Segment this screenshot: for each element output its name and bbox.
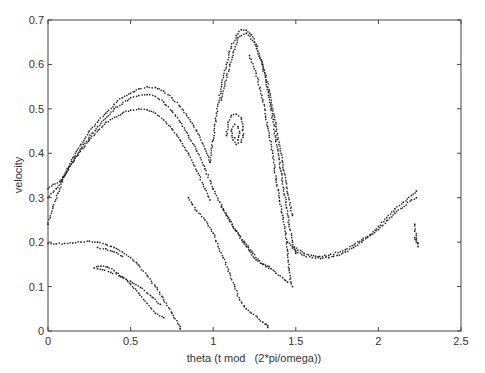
data-point <box>201 216 202 217</box>
data-point <box>182 143 183 144</box>
data-point <box>229 66 230 67</box>
data-point <box>78 241 79 242</box>
data-point <box>112 118 113 119</box>
data-point <box>107 245 108 246</box>
data-point <box>258 79 259 80</box>
data-point <box>286 246 287 247</box>
data-point <box>111 246 112 247</box>
data-point <box>132 91 133 92</box>
data-point <box>212 188 214 190</box>
data-point <box>264 108 265 109</box>
data-point <box>206 153 207 154</box>
data-point <box>273 162 274 163</box>
data-point <box>385 223 386 224</box>
data-point <box>232 55 233 56</box>
y-tick-label: 0.6 <box>29 58 44 70</box>
data-point <box>276 178 277 179</box>
data-point <box>128 256 129 257</box>
data-point <box>357 244 358 245</box>
data-point <box>392 214 393 215</box>
data-point <box>267 265 268 266</box>
data-point <box>411 199 413 201</box>
data-point <box>237 33 238 34</box>
data-point <box>278 153 279 154</box>
data-point <box>286 243 287 244</box>
data-point <box>236 144 238 146</box>
data-point <box>290 210 291 211</box>
data-point <box>313 255 314 256</box>
data-point <box>138 108 140 110</box>
data-point <box>68 168 69 169</box>
data-point <box>384 219 385 220</box>
data-point <box>79 145 80 146</box>
data-point <box>226 64 228 66</box>
data-point <box>98 129 99 130</box>
data-point <box>53 190 54 191</box>
data-point <box>260 320 261 321</box>
data-point <box>159 99 160 100</box>
data-point <box>181 123 182 124</box>
data-point <box>250 38 251 39</box>
data-point <box>159 294 160 295</box>
data-point <box>361 239 363 241</box>
data-point <box>416 197 418 199</box>
y-tick-label: 0.2 <box>29 236 44 248</box>
data-point <box>188 135 190 137</box>
data-point <box>113 247 115 249</box>
data-point <box>133 96 134 97</box>
data-point <box>84 138 85 139</box>
data-point <box>372 231 373 232</box>
data-point <box>190 121 191 122</box>
data-point <box>119 105 120 106</box>
data-point <box>270 97 271 98</box>
data-point <box>107 266 109 268</box>
data-point <box>169 95 170 96</box>
data-point <box>271 146 272 147</box>
data-point <box>258 84 259 85</box>
data-point <box>224 85 225 86</box>
data-point <box>207 155 208 156</box>
data-point <box>200 139 201 140</box>
data-point <box>187 132 188 133</box>
data-point <box>219 97 220 98</box>
data-point <box>172 129 173 130</box>
data-point <box>287 261 288 262</box>
data-point <box>284 174 285 175</box>
data-point <box>196 210 198 212</box>
data-point <box>71 161 72 162</box>
data-point <box>58 185 59 186</box>
data-point <box>233 228 234 229</box>
data-point <box>267 126 269 128</box>
data-point <box>133 283 134 284</box>
data-point <box>138 264 140 266</box>
data-point <box>116 272 117 273</box>
data-point <box>265 75 266 76</box>
data-point <box>322 256 323 257</box>
data-point <box>90 128 91 129</box>
data-point <box>236 230 238 232</box>
data-point <box>378 226 380 228</box>
data-point <box>291 283 292 284</box>
data-point <box>279 204 280 205</box>
data-point <box>278 157 279 158</box>
data-point <box>182 145 183 146</box>
data-point <box>88 132 89 133</box>
data-point <box>248 34 249 35</box>
data-point <box>126 95 127 96</box>
data-point <box>281 154 282 155</box>
data-point <box>141 94 142 95</box>
data-point <box>289 272 290 273</box>
data-point <box>72 242 74 244</box>
data-point <box>101 127 102 128</box>
data-point <box>275 137 276 138</box>
data-point <box>56 197 57 198</box>
data-point <box>194 209 195 210</box>
data-point <box>255 73 257 75</box>
data-point <box>286 191 287 192</box>
data-point <box>407 198 408 199</box>
data-point <box>263 104 264 105</box>
data-point <box>83 144 84 145</box>
data-point <box>232 139 234 141</box>
data-point <box>64 243 66 245</box>
data-point <box>285 280 286 281</box>
